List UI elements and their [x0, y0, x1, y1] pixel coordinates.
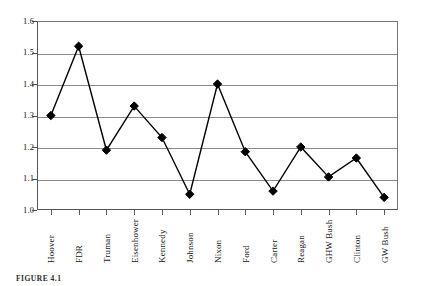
figure-caption: FIGURE 4.1: [16, 274, 61, 283]
x-axis-tick-mark: [301, 210, 302, 215]
x-axis-tick-mark: [134, 210, 135, 215]
x-axis-label-nixon: Nixon: [214, 240, 223, 263]
x-axis-tick-mark: [218, 210, 219, 215]
data-point-marker: [102, 146, 110, 154]
x-axis-label-carter: Carter: [270, 240, 279, 263]
x-axis-label-eisenhower: Eisenhower: [131, 219, 140, 263]
data-point-marker: [186, 190, 194, 198]
x-axis-label-johnson: Johnson: [186, 232, 195, 263]
x-axis-tick-mark: [273, 210, 274, 215]
x-axis-tick-mark: [245, 210, 246, 215]
data-point-marker: [74, 42, 82, 50]
x-axis-tick-mark: [190, 210, 191, 215]
data-point-marker: [269, 187, 277, 195]
x-axis-label-reagan: Reagan: [297, 235, 306, 263]
data-point-marker: [352, 154, 360, 162]
data-point-marker: [241, 148, 249, 156]
series-markers: [47, 42, 389, 202]
x-axis-label-ford: Ford: [242, 245, 251, 263]
x-axis-label-gw-bush: GW Bush: [381, 226, 390, 263]
x-axis-label-ghw-bush: GHW Bush: [325, 220, 334, 263]
x-axis-label-truman: Truman: [103, 234, 112, 263]
x-axis-tick-mark: [51, 210, 52, 215]
x-axis-tick-mark: [329, 210, 330, 215]
series-polyline: [51, 46, 384, 197]
x-axis-tick-mark: [106, 210, 107, 215]
x-axis-label-fdr: FDR: [75, 245, 84, 263]
x-axis-tick-mark: [162, 210, 163, 215]
data-point-marker: [213, 80, 221, 88]
x-axis-tick-mark: [79, 210, 80, 215]
x-axis-tick-mark: [384, 210, 385, 215]
figure-container: 1.61.51.41.31.21.11.0 HooverFDRTrumanEis…: [0, 0, 424, 286]
data-point-marker: [380, 193, 388, 201]
x-axis-label-clinton: Clinton: [353, 235, 362, 263]
x-axis-label-kennedy: Kennedy: [158, 229, 167, 263]
data-point-marker: [47, 111, 55, 119]
x-axis-label-hoover: Hoover: [47, 235, 56, 263]
x-axis-tick-mark: [356, 210, 357, 215]
